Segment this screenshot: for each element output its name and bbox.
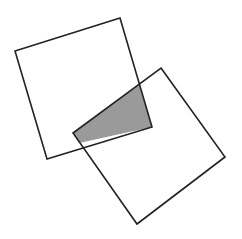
overlapping-squares-diagram: [0, 0, 242, 239]
square-2: [73, 68, 225, 224]
overlap-region: [73, 85, 152, 143]
